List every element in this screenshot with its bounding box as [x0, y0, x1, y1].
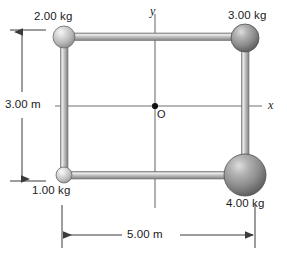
dimension-width	[62, 205, 255, 248]
mass-label-3kg: 3.00 kg	[228, 9, 266, 21]
mass-label-1kg: 1.00 kg	[32, 184, 70, 196]
sphere-2kg	[53, 26, 75, 48]
rod-left	[61, 37, 69, 175]
origin-label: O	[157, 108, 166, 120]
rod-top	[64, 33, 245, 41]
mass-label-2kg: 2.00 kg	[34, 10, 72, 22]
y-axis-label: y	[150, 4, 155, 19]
dimension-label-height: 3.00 m	[5, 98, 41, 110]
mass-label-4kg: 4.00 kg	[226, 197, 264, 209]
sphere-4kg	[224, 154, 266, 196]
x-axis-label: x	[268, 98, 273, 113]
dimension-label-width: 5.00 m	[127, 228, 163, 240]
sphere-3kg	[231, 24, 259, 52]
physics-diagram: 2.00 kg 3.00 kg 1.00 kg 4.00 kg 3.00 m 5…	[0, 0, 287, 254]
rod-bottom	[64, 172, 245, 180]
sphere-1kg	[56, 167, 72, 183]
diagram-canvas	[0, 0, 287, 254]
